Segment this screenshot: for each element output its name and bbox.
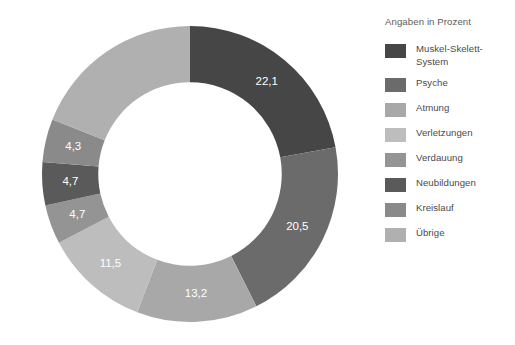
donut-slice[interactable] <box>231 147 338 306</box>
slice-value-label: 4,3 <box>65 140 81 152</box>
legend-color-swatch <box>385 153 406 167</box>
slice-value-label: 20,5 <box>286 220 308 232</box>
slice-value-label: 11,5 <box>100 257 122 269</box>
legend-item-label: Kreislauf <box>416 202 454 215</box>
legend-item-label: Verdauung <box>416 152 463 165</box>
legend-item[interactable]: Neubildungen <box>385 177 513 193</box>
donut-chart: 22,120,513,211,54,74,74,3 <box>18 18 363 330</box>
legend-item[interactable]: Übrige <box>385 227 513 243</box>
slice-value-label: 13,2 <box>185 287 207 299</box>
legend-item[interactable]: Psyche <box>385 77 513 93</box>
slice-value-label: 4,7 <box>69 208 85 220</box>
legend-color-swatch <box>385 228 406 242</box>
donut-slice[interactable] <box>190 26 336 157</box>
chart-legend: Angaben in Prozent Muskel-Skelett-System… <box>385 16 513 252</box>
legend-color-swatch <box>385 178 406 192</box>
legend-items: Muskel-Skelett-SystemPsycheAtmungVerletz… <box>385 43 513 243</box>
donut-slices <box>42 26 338 322</box>
legend-title: Angaben in Prozent <box>385 16 513 27</box>
legend-color-swatch <box>385 44 406 58</box>
legend-color-swatch <box>385 203 406 217</box>
donut-chart-svg: 22,120,513,211,54,74,74,3 <box>18 18 363 330</box>
legend-item[interactable]: Muskel-Skelett-System <box>385 43 513 68</box>
legend-item-label: Neubildungen <box>416 177 476 190</box>
slice-value-label: 4,7 <box>62 175 78 187</box>
donut-slice[interactable] <box>52 26 190 140</box>
legend-item-label: Übrige <box>416 227 445 240</box>
chart-page: 22,120,513,211,54,74,74,3 Angaben in Pro… <box>0 0 515 345</box>
slice-value-label: 22,1 <box>256 75 278 87</box>
legend-item[interactable]: Kreislauf <box>385 202 513 218</box>
legend-item-label: Verletzungen <box>416 127 473 140</box>
legend-item[interactable]: Atmung <box>385 102 513 118</box>
legend-color-swatch <box>385 103 406 117</box>
legend-color-swatch <box>385 128 406 142</box>
legend-item[interactable]: Verdauung <box>385 152 513 168</box>
legend-color-swatch <box>385 78 406 92</box>
legend-item-label: Atmung <box>416 102 449 115</box>
legend-item[interactable]: Verletzungen <box>385 127 513 143</box>
legend-item-label: Muskel-Skelett-System <box>416 43 513 68</box>
legend-item-label: Psyche <box>416 77 448 90</box>
